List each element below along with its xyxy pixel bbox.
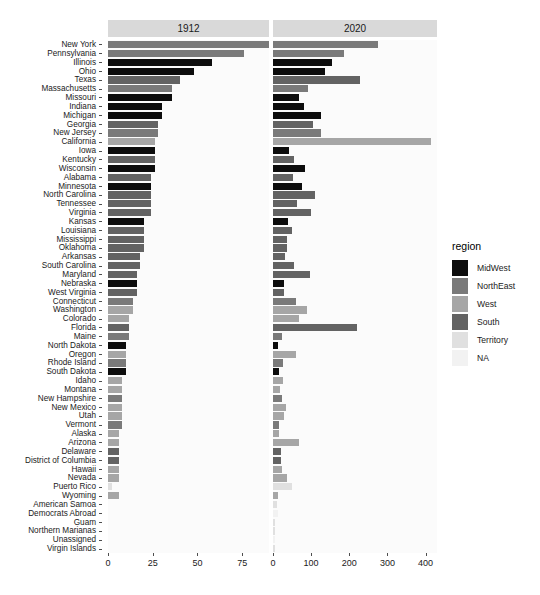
bar [108, 200, 151, 207]
bar [273, 50, 344, 57]
bar-row [273, 429, 437, 439]
y-axis-tick [99, 372, 102, 373]
y-axis-label: New Hampshire [38, 394, 96, 404]
legend-swatch [452, 314, 468, 330]
bar [108, 351, 126, 358]
y-axis-tick [99, 407, 102, 408]
legend-item[interactable]: Territory [447, 331, 540, 348]
bar-row [108, 473, 269, 483]
bar [108, 112, 162, 119]
bar [273, 271, 310, 278]
bar [273, 85, 308, 92]
legend-label: NA [477, 353, 489, 363]
bar [108, 41, 269, 48]
legend-item[interactable]: South [447, 313, 540, 330]
bar [108, 359, 126, 366]
bar [108, 156, 155, 163]
bar-row [273, 235, 437, 245]
bar-row [108, 438, 269, 448]
bar [273, 412, 284, 419]
bar [273, 244, 287, 251]
bar [108, 103, 162, 110]
y-axis-tick [99, 531, 102, 532]
legend-label: South [477, 317, 499, 327]
bar [108, 298, 133, 305]
y-axis-tick [99, 310, 102, 311]
panel-1912 [108, 40, 269, 553]
y-axis-tick [99, 248, 102, 249]
y-axis-label: Mississippi [56, 235, 96, 245]
x-axis-tick [108, 553, 109, 556]
bar-row [108, 128, 269, 138]
legend-item[interactable]: West [447, 295, 540, 312]
bar [273, 510, 278, 517]
legend-label: NorthEast [477, 281, 515, 291]
bar-row [108, 288, 269, 298]
bar-row [108, 447, 269, 457]
bar [273, 439, 299, 446]
bar [108, 457, 119, 464]
bar [273, 253, 285, 260]
bar-row [273, 252, 437, 262]
bar-row [108, 164, 269, 174]
bar [273, 404, 286, 411]
facet-strip-1912: 1912 [108, 20, 269, 37]
legend-item[interactable]: NA [447, 349, 540, 366]
bar-row [273, 288, 437, 298]
legend-item[interactable]: MidWest [447, 259, 540, 276]
bar-row [108, 403, 269, 413]
x-axis-tick [153, 553, 154, 556]
y-axis-label: Virginia [69, 208, 96, 218]
bar-row [108, 491, 269, 501]
y-axis-label: Alaska [71, 429, 96, 439]
y-axis-tick [99, 487, 102, 488]
facet-strip-label: 2020 [344, 23, 366, 34]
bar-row [273, 182, 437, 192]
y-axis-tick [99, 142, 102, 143]
y-axis-tick [99, 239, 102, 240]
y-axis-label: Kentucky [62, 155, 96, 165]
bar [108, 94, 172, 101]
bar-row [273, 75, 437, 85]
x-axis-tick [242, 553, 243, 556]
bar [273, 315, 299, 322]
legend-item[interactable]: NorthEast [447, 277, 540, 294]
bar-row [273, 208, 437, 218]
y-axis-tick [99, 425, 102, 426]
y-axis-label: South Dakota [46, 367, 96, 377]
bar [273, 395, 282, 402]
bar [108, 191, 151, 198]
y-axis-tick [99, 451, 102, 452]
bar-row [108, 297, 269, 307]
bar [108, 174, 151, 181]
bar-row [273, 438, 437, 448]
bar-row [108, 367, 269, 377]
bar [273, 519, 275, 526]
bar [273, 359, 283, 366]
bar-row [273, 279, 437, 289]
bar-row [273, 482, 437, 492]
bar [273, 76, 360, 83]
bar [273, 68, 325, 75]
bar-row [108, 75, 269, 85]
bar [108, 50, 244, 57]
y-axis-label: South Carolina [42, 261, 96, 271]
bar-row [108, 146, 269, 156]
bar [108, 324, 129, 331]
bar-row [108, 252, 269, 262]
y-axis-label: New York [61, 40, 96, 50]
bar-row [273, 120, 437, 130]
bar-row [108, 208, 269, 218]
y-axis-tick [99, 354, 102, 355]
bar-row [108, 500, 269, 510]
legend-swatch [452, 260, 468, 276]
y-axis-tick [99, 124, 102, 125]
bar-row [273, 367, 437, 377]
y-axis-label: Nevada [68, 473, 96, 483]
y-axis-tick [99, 80, 102, 81]
bar [108, 85, 172, 92]
y-axis-tick [99, 53, 102, 54]
x-axis-tick [197, 553, 198, 556]
legend-swatch [452, 296, 468, 312]
y-axis-tick [99, 212, 102, 213]
